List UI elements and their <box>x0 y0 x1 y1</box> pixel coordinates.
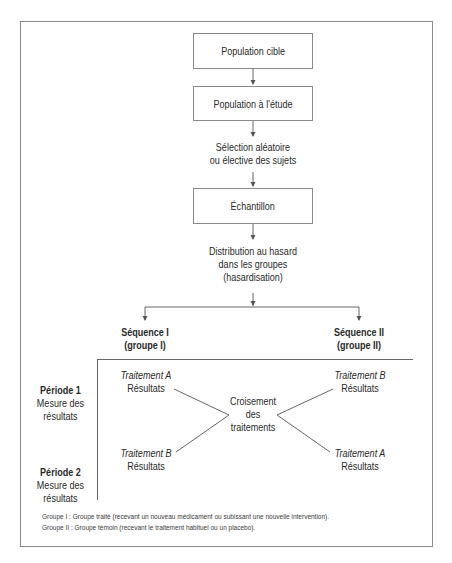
footnote-text: Groupe traité (recevant un nouveau médic… <box>73 512 329 521</box>
distribution-line-3: (hasardisation) <box>184 271 322 284</box>
crossover-line-3: traitements <box>219 421 288 434</box>
selection-line-1: Sélection aléatoire <box>184 141 322 154</box>
sequence-1-title: Séquence I <box>102 326 188 339</box>
selection-text: Sélection aléatoire ou élective des suje… <box>184 141 322 167</box>
distribution-line-2: dans les groupes <box>184 258 322 271</box>
distribution-line-1: Distribution au hasard <box>184 245 322 258</box>
cell-treatment: Traitement A <box>326 447 395 460</box>
population-etude-box: Population à l'étude <box>193 86 313 121</box>
cell-period-2-sequence-1: Traitement B Résultats <box>112 447 181 473</box>
echantillon-label: Échantillon <box>231 200 275 212</box>
cell-period-2-sequence-2: Traitement A Résultats <box>326 447 395 473</box>
period-2-line-1: Mesure des <box>37 479 84 492</box>
period-1-line-2: résultats <box>37 410 84 423</box>
period-1-label: Période 1 Mesure des résultats <box>37 384 84 423</box>
footnote-group-2: Groupe II : Groupe témoin (recevant le t… <box>42 522 255 533</box>
footnote-group-1: Groupe I : Groupe traité (recevant un no… <box>42 511 329 522</box>
sequence-2-group: (groupe II) <box>316 339 402 352</box>
period-2-title: Période 2 <box>37 466 84 479</box>
distribution-text: Distribution au hasard dans les groupes … <box>184 245 322 284</box>
cell-treatment: Traitement B <box>326 369 395 382</box>
period-2-label: Période 2 Mesure des résultats <box>37 466 84 505</box>
period-1-line-1: Mesure des <box>37 397 84 410</box>
cell-result: Résultats <box>112 382 181 395</box>
crossover-line-2: des <box>219 408 288 421</box>
cell-result: Résultats <box>112 460 181 473</box>
sequence-2-title: Séquence II <box>316 326 402 339</box>
population-cible-label: Population cible <box>221 45 285 57</box>
echantillon-box: Échantillon <box>193 188 313 224</box>
cell-period-1-sequence-1: Traitement A Résultats <box>112 369 181 395</box>
cell-result: Résultats <box>326 460 395 473</box>
cell-period-1-sequence-2: Traitement B Résultats <box>326 369 395 395</box>
footnote-key: Groupe I : <box>42 512 71 521</box>
selection-line-2: ou élective des sujets <box>184 154 322 167</box>
sequence-2-header: Séquence II (groupe II) <box>316 326 402 352</box>
footnote-key: Groupe II : <box>42 523 73 532</box>
crossover-line-1: Croisement <box>219 395 288 408</box>
population-cible-box: Population cible <box>193 33 313 69</box>
cell-treatment: Traitement A <box>112 369 181 382</box>
period-2-line-2: résultats <box>37 492 84 505</box>
sequence-1-group: (groupe I) <box>102 339 188 352</box>
population-etude-label: Population à l'étude <box>213 98 292 110</box>
period-1-title: Période 1 <box>37 384 84 397</box>
cell-treatment: Traitement B <box>112 447 181 460</box>
footnote-text: Groupe témoin (recevant le traitement ha… <box>75 523 256 532</box>
sequence-1-header: Séquence I (groupe I) <box>102 326 188 352</box>
crossover-label: Croisement des traitements <box>219 395 288 434</box>
cell-result: Résultats <box>326 382 395 395</box>
